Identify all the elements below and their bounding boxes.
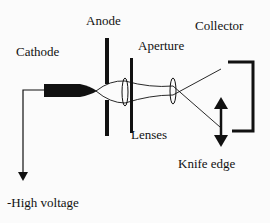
lens-1 (122, 78, 128, 106)
aperture-label: Aperture (138, 39, 184, 52)
collector-bracket (228, 62, 253, 131)
knife-edge-label: Knife edge (178, 157, 235, 170)
aperture-plate (130, 58, 133, 133)
electron-beam-diagram (0, 0, 270, 223)
electron-beam (96, 69, 221, 127)
collector-label: Collector (195, 19, 243, 32)
high-voltage-lead (18, 90, 44, 181)
lenses-label: Lenses (131, 128, 167, 141)
anode-plate (105, 38, 109, 136)
lens-2 (170, 78, 176, 104)
high-voltage-label: -High voltage (7, 196, 79, 209)
cathode-tip (44, 84, 97, 97)
anode-label: Anode (86, 14, 121, 27)
knife-edge-arrow (214, 97, 228, 147)
cathode-label: Cathode (16, 45, 59, 58)
